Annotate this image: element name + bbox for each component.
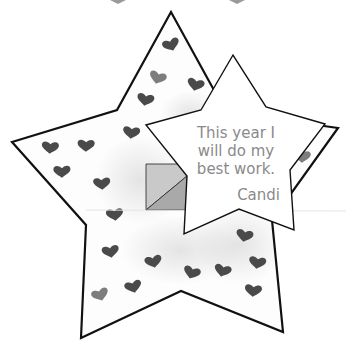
note-line-1: This year I (196, 124, 275, 142)
note-line-2: will do my (198, 142, 275, 160)
top-left-shape (110, 0, 126, 4)
folded-square (146, 164, 187, 210)
note-signature: Candi (237, 186, 280, 204)
top-right-shape (229, 0, 245, 4)
note-line-3: best work. (197, 160, 275, 178)
star-craft-scene: This year I will do my best work. Candi (0, 0, 346, 346)
